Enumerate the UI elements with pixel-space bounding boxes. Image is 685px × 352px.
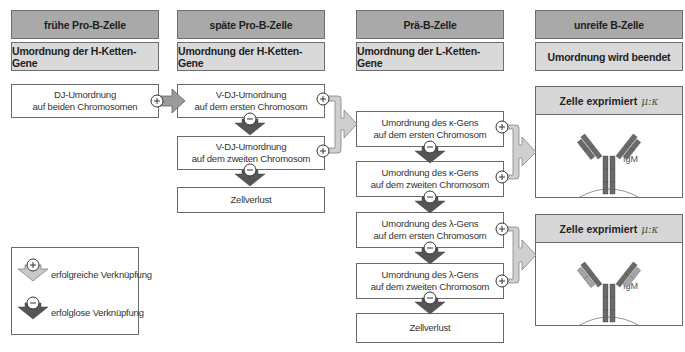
legend-failure-label: erfolglose Verknüpfung — [51, 307, 144, 318]
result-box-lambda: Zelle exprimiert μ:κ — [535, 214, 683, 326]
cell-loss-box-light: Zellverlust — [356, 313, 504, 343]
result-box-kappa: Zelle exprimiert μ:κ — [535, 86, 683, 198]
result-title-text: Zelle exprimiert — [560, 95, 638, 107]
result-title-lambda: Zelle exprimiert μ:κ — [536, 215, 682, 243]
header-stage-late-pro-b: späte Pro-B-Zelle — [177, 10, 325, 39]
kappa-second-chromosome-box: Umordnung des κ-Gens auf dem zweiten Chr… — [356, 161, 504, 197]
igm-label-2: IgM — [623, 281, 638, 291]
header-stage-early-pro-b: frühe Pro-B-Zelle — [11, 10, 159, 39]
failure-arrow-icon — [415, 248, 445, 264]
igm-label-1: IgM — [623, 154, 638, 164]
vdj-second-chromosome-box: V-DJ-Umordnung auf dem zweiten Chromosom — [177, 136, 325, 170]
chain-notation: μ:κ — [641, 95, 658, 107]
header-process-3: Umordnung der L-Ketten-Gene — [356, 42, 504, 71]
legend-success-label: erfolgreiche Verknüpfung — [51, 269, 152, 280]
header-process-2: Umordnung der H-Ketten-Gene — [177, 42, 325, 71]
lambda-second-chromosome-box: Umordnung des λ-Gens auf dem zweiten Chr… — [356, 263, 504, 299]
header-process-4: Umordnung wird beendet — [535, 42, 683, 71]
result-title-text: Zelle exprimiert — [560, 223, 638, 235]
failure-arrow-icon — [235, 170, 265, 186]
dj-rearrangement-box: DJ-Umordnung auf beiden Chromosomen — [11, 84, 159, 118]
chain-notation: μ:κ — [641, 223, 658, 235]
kappa-first-chromosome-box: Umordnung des κ-Gens auf dem ersten Chro… — [356, 111, 504, 147]
header-stage-immature-b: unreife B-Zelle — [535, 10, 683, 39]
header-process-1: Umordnung der H-Ketten-Gene — [11, 42, 159, 71]
header-stage-pre-b: Prä-B-Zelle — [356, 10, 504, 39]
failure-arrow-icon — [415, 298, 445, 314]
failure-arrow-icon — [415, 197, 445, 213]
result-title-kappa: Zelle exprimiert μ:κ — [536, 87, 682, 115]
legend-box — [11, 247, 139, 335]
vdj-first-chromosome-box: V-DJ-Umordnung auf dem ersten Chromosom — [177, 84, 325, 118]
lambda-first-chromosome-box: Umordnung des λ-Gens auf dem ersten Chro… — [356, 212, 504, 248]
failure-arrow-icon — [235, 119, 265, 135]
cell-loss-box-heavy: Zellverlust — [177, 187, 325, 213]
